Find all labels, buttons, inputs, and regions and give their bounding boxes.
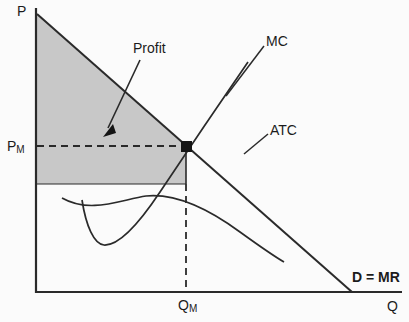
quantity-tick-subscript: M <box>189 303 197 314</box>
price-tick-letter: P <box>7 138 16 154</box>
mc-leader-line <box>226 46 264 96</box>
equilibrium-point-marker <box>181 141 192 152</box>
profit-label: Profit <box>133 41 166 55</box>
atc-leader-line <box>244 134 268 154</box>
quantity-tick-letter: Q <box>178 297 189 313</box>
atc-curve <box>62 196 284 262</box>
price-tick-label: PM <box>7 139 25 153</box>
demand-label: D = MR <box>352 270 400 284</box>
quantity-tick-label: QM <box>178 298 197 312</box>
atc-label: ATC <box>270 123 297 137</box>
y-axis-label: P <box>17 4 26 18</box>
monopoly-profit-diagram: P Q PM QM Profit MC ATC D = MR <box>0 0 409 322</box>
x-axis-label: Q <box>387 299 398 313</box>
mc-label: MC <box>266 34 288 48</box>
chart-canvas <box>0 0 409 322</box>
price-tick-subscript: M <box>16 144 24 155</box>
